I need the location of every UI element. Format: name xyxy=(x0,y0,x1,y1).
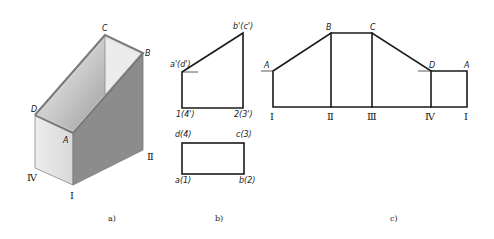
top-view-outline xyxy=(182,143,244,174)
label-front-bottom-left: 1(4') xyxy=(176,110,195,119)
label-vertex-d: D xyxy=(31,105,37,114)
label-base-iii: Ⅲ xyxy=(367,111,377,122)
label-vertex-c: C xyxy=(102,24,108,33)
label-top-top-right: c(3) xyxy=(236,130,252,139)
figure-canvas: C B D A Ⅱ Ⅳ Ⅰ a) b'(c') a'(d') 1(4') 2(3… xyxy=(0,0,494,239)
caption-c: c) xyxy=(390,214,398,223)
panel-c-development: A B C D A Ⅰ Ⅱ Ⅲ Ⅳ Ⅰ c) xyxy=(261,23,469,223)
label-edge-i: Ⅰ xyxy=(70,190,74,201)
label-base-i-left: Ⅰ xyxy=(270,111,274,122)
label-front-top-right: b'(c') xyxy=(233,22,253,31)
panel-b-orthographic: b'(c') a'(d') 1(4') 2(3') d(4) c(3) a(1)… xyxy=(170,22,255,223)
label-dev-d: D xyxy=(429,61,435,70)
label-vertex-a: A xyxy=(62,136,68,145)
label-base-i-right: Ⅰ xyxy=(464,111,468,122)
label-dev-a-right: A xyxy=(463,61,469,70)
label-top-top-left: d(4) xyxy=(175,130,191,139)
label-base-iv: Ⅳ xyxy=(425,111,436,122)
panel-a-isometric: C B D A Ⅱ Ⅳ Ⅰ a) xyxy=(27,24,154,223)
label-front-left-top: a'(d') xyxy=(170,60,191,69)
label-edge-iv: Ⅳ xyxy=(27,172,38,183)
caption-a: a) xyxy=(108,214,116,223)
label-vertex-b: B xyxy=(145,49,151,58)
front-view-outline xyxy=(182,33,243,108)
label-edge-ii: Ⅱ xyxy=(147,151,154,162)
label-top-bottom-left: a(1) xyxy=(175,176,191,185)
label-base-ii: Ⅱ xyxy=(327,111,334,122)
development-outline xyxy=(273,33,467,107)
caption-b: b) xyxy=(215,214,223,223)
label-top-bottom-right: b(2) xyxy=(239,176,255,185)
label-dev-b: B xyxy=(326,23,332,32)
label-dev-c: C xyxy=(370,23,376,32)
label-dev-a-left: A xyxy=(263,61,269,70)
label-front-bottom-right: 2(3') xyxy=(234,110,253,119)
